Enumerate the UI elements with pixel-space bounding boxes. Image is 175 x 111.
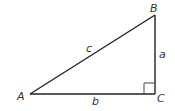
triangle-diagram: B C A c a b [0, 0, 175, 111]
side-label-b: b [92, 95, 99, 108]
side-label-c: c [86, 42, 92, 55]
side-c [30, 15, 155, 94]
vertex-label-c: C [157, 92, 165, 105]
side-label-a: a [159, 48, 166, 61]
vertex-label-b: B [150, 2, 158, 15]
right-angle-marker [144, 83, 155, 94]
vertex-label-a: A [16, 90, 25, 103]
